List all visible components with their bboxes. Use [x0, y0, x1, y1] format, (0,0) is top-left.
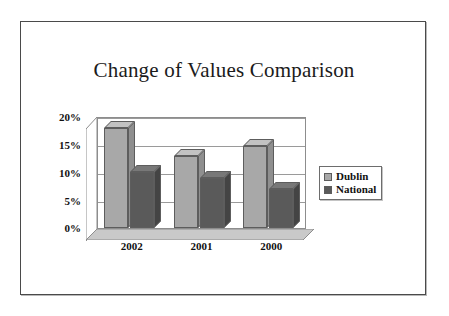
legend-label: Dublin: [336, 171, 368, 182]
x-tick-label: 2001: [172, 240, 232, 252]
plot-area: [97, 117, 306, 229]
bar-side-face: [154, 165, 161, 228]
legend-item-dublin[interactable]: Dublin: [324, 170, 376, 183]
y-tick-label: 5%: [37, 196, 81, 207]
chart-legend[interactable]: DublinNational: [319, 166, 382, 200]
bar-national-2001[interactable]: [200, 178, 224, 228]
chart-floor: [86, 229, 314, 240]
bar-front-face: [174, 156, 198, 228]
legend-label: National: [336, 184, 376, 195]
y-tick-label: 10%: [37, 168, 81, 179]
bar-national-2002[interactable]: [130, 172, 154, 228]
bar-national-2000[interactable]: [269, 189, 293, 228]
bar-front-face: [200, 178, 224, 228]
bars-layer: [98, 118, 305, 228]
bar-dublin-2002[interactable]: [104, 128, 128, 228]
bar-dublin-2001[interactable]: [174, 156, 198, 228]
bar-front-face: [243, 146, 267, 228]
y-tick-label: 0%: [37, 223, 81, 234]
legend-item-national[interactable]: National: [324, 183, 376, 196]
bar-dublin-2000[interactable]: [243, 146, 267, 228]
legend-swatch-icon: [324, 173, 332, 181]
bar-side-face: [293, 182, 300, 228]
y-axis: 20%15%10%5%0%: [31, 22, 81, 296]
bar-front-face: [104, 128, 128, 228]
bar-front-face: [269, 189, 293, 228]
bar-chart: 20%15%10%5%0% 200220012000 DublinNationa…: [21, 22, 427, 296]
slide-frame: Change of Values Comparison 20%15%10%5%0…: [20, 21, 426, 295]
y-tick-label: 15%: [37, 140, 81, 151]
x-axis: 200220012000: [97, 240, 317, 258]
bar-front-face: [130, 172, 154, 228]
x-tick-label: 2002: [102, 240, 162, 252]
legend-swatch-icon: [324, 186, 332, 194]
y-tick-label: 20%: [37, 112, 81, 123]
bar-side-face: [224, 171, 231, 228]
x-tick-label: 2000: [241, 240, 301, 252]
